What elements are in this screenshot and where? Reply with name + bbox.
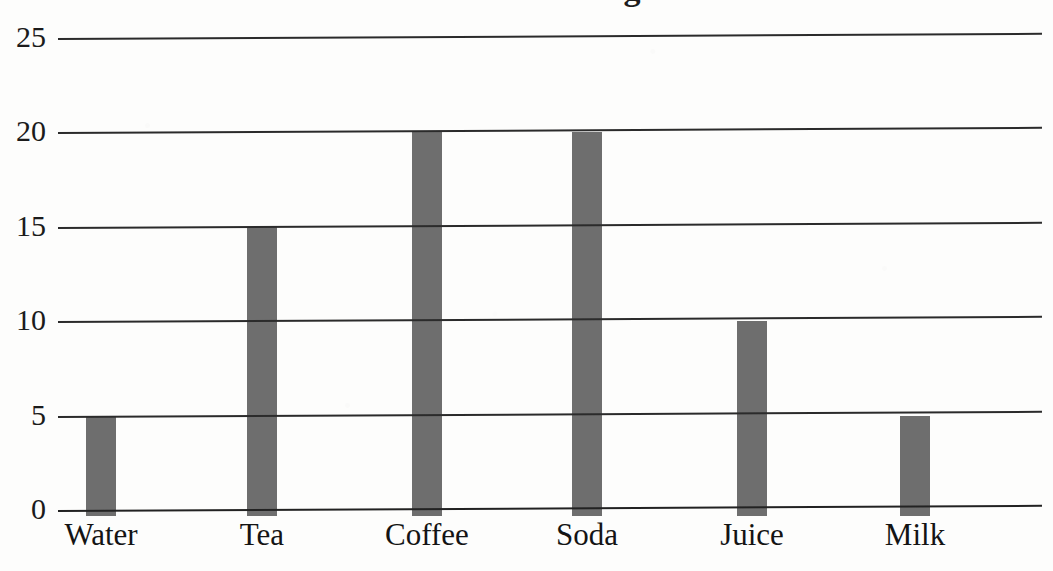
y-axis-tick-label-25: 25 bbox=[0, 22, 46, 52]
bar-soda bbox=[572, 132, 602, 516]
y-axis-tick-label-20: 20 bbox=[0, 116, 46, 146]
gridline-20 bbox=[58, 127, 1042, 134]
y-axis-tick-label-5: 5 bbox=[0, 400, 46, 430]
bar-water bbox=[86, 416, 116, 516]
bar-milk bbox=[900, 416, 930, 516]
chart-title-text: Favorite Beverages bbox=[0, 0, 1053, 7]
y-axis-tick-label-10: 10 bbox=[0, 305, 46, 335]
y-axis-tick-label-15: 15 bbox=[0, 211, 46, 241]
bar-juice bbox=[737, 321, 767, 516]
plot-area: 2520151050WaterTeaCoffeeSodaJuiceMilk bbox=[0, 0, 1053, 571]
bar-tea bbox=[247, 227, 277, 516]
gridline-25 bbox=[58, 33, 1042, 40]
bar-chart: Favorite Beverages 2520151050WaterTeaCof… bbox=[0, 0, 1053, 571]
chart-title-cropped: Favorite Beverages bbox=[0, 0, 1053, 7]
gridline-5 bbox=[58, 410, 1042, 417]
gridline-15 bbox=[58, 222, 1042, 229]
x-axis-tick-label-milk: Milk bbox=[805, 519, 1025, 550]
gridline-0 bbox=[58, 505, 1042, 512]
bar-coffee bbox=[412, 132, 442, 516]
gridline-10 bbox=[58, 316, 1042, 323]
